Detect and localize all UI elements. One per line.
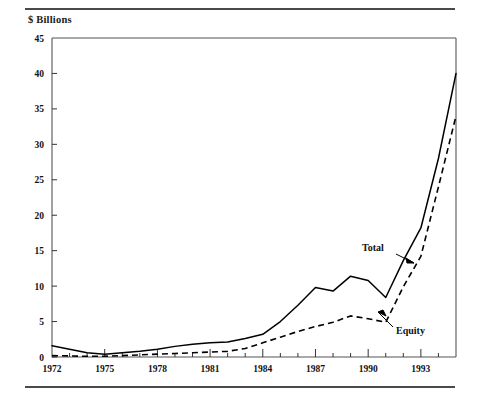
bottom-rule — [25, 386, 455, 388]
data-series-group — [52, 73, 456, 356]
x-tick-label: 1987 — [306, 364, 325, 374]
axis-lines — [52, 38, 456, 357]
line-chart-plot: 051015202530354045 197219751978198119841… — [0, 0, 479, 404]
x-tick-label: 1981 — [201, 364, 220, 374]
y-tick-label: 5 — [39, 317, 44, 327]
y-tick-label: 25 — [35, 175, 45, 185]
series-line-equity — [52, 116, 456, 356]
y-tick-label: 20 — [35, 211, 45, 221]
annotation-group: Total Equity — [362, 242, 425, 336]
annotation-arrowhead-total — [406, 258, 414, 263]
y-tick-label: 45 — [35, 34, 45, 44]
y-tick-label: 10 — [35, 282, 45, 292]
y-tick-label: 40 — [35, 69, 45, 79]
y-axis-ticks: 051015202530354045 — [35, 34, 58, 363]
x-tick-label: 1972 — [43, 364, 62, 374]
y-tick-label: 30 — [35, 140, 45, 150]
x-axis-ticks: 19721975197819811984198719901993 — [43, 349, 439, 374]
x-tick-label: 1990 — [359, 364, 378, 374]
annotation-label-equity: Equity — [396, 325, 425, 336]
x-tick-label: 1993 — [411, 364, 430, 374]
annotation-label-total: Total — [362, 242, 384, 253]
x-tick-label: 1978 — [148, 364, 167, 374]
x-tick-label: 1984 — [253, 364, 272, 374]
y-tick-label: 15 — [35, 246, 45, 256]
plot-frame — [52, 38, 456, 357]
series-line-total — [52, 73, 456, 354]
chart-figure: $ Billions 051015202530354045 1972197519… — [0, 0, 479, 404]
annotation-arrowhead-equity — [378, 310, 386, 316]
x-tick-label: 1975 — [95, 364, 114, 374]
y-tick-label: 0 — [39, 353, 44, 363]
y-tick-label: 35 — [35, 104, 45, 114]
